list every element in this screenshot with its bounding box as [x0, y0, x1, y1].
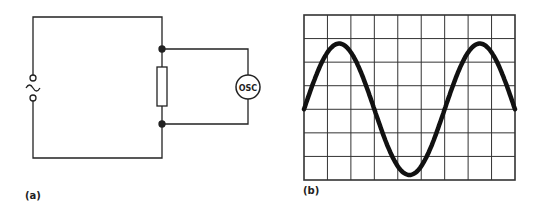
- figure-canvas: OSC: [0, 0, 541, 215]
- scope-leads: [162, 49, 248, 124]
- resistor: [157, 67, 167, 106]
- circuit-loop-wire: [33, 17, 162, 158]
- figure-a-label: (a): [25, 190, 41, 201]
- oscilloscope-screen: [304, 15, 515, 180]
- junction-node-bottom: [159, 121, 165, 127]
- source-terminal-bottom: [30, 95, 36, 101]
- circuit-diagram: [26, 17, 260, 158]
- source-terminal-top: [30, 75, 36, 81]
- junction-node-top: [159, 46, 165, 52]
- oscilloscope-label: OSC: [239, 84, 258, 93]
- figure-b-label: (b): [303, 185, 319, 196]
